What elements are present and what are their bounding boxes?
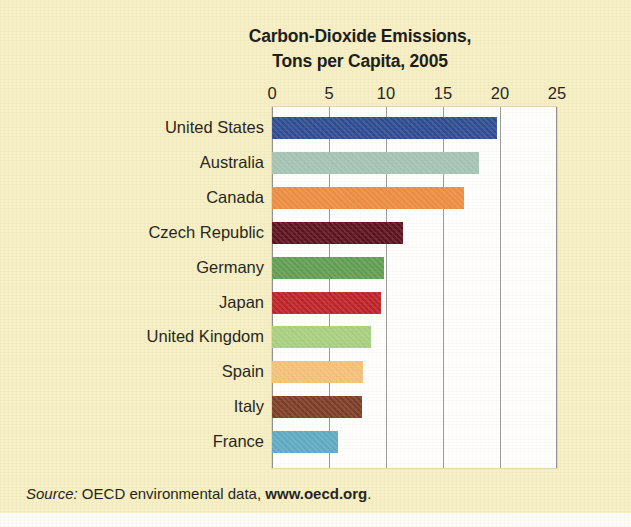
category-label-italy: Italy — [14, 397, 264, 416]
bar-texture — [272, 117, 497, 139]
bar-france — [272, 431, 338, 453]
x-tick-label-20: 20 — [480, 84, 520, 103]
category-label-spain: Spain — [14, 362, 264, 381]
category-label-united-kingdom: United Kingdom — [14, 327, 264, 346]
bar-texture — [272, 187, 464, 209]
gridline-20 — [500, 107, 501, 468]
bar-texture — [272, 257, 384, 279]
bar-italy — [272, 396, 362, 418]
x-tick-label-10: 10 — [366, 84, 406, 103]
bar-texture — [272, 361, 363, 383]
chart-title: Carbon-Dioxide Emissions, Tons per Capit… — [150, 24, 570, 74]
plot-area — [272, 107, 557, 468]
bar-spain — [272, 361, 363, 383]
bar-texture — [272, 152, 479, 174]
co2-emissions-bar-chart-figure: Carbon-Dioxide Emissions, Tons per Capit… — [0, 0, 631, 527]
x-tick-label-5: 5 — [309, 84, 349, 103]
page-bottom-strip — [0, 513, 631, 527]
bar-texture — [272, 292, 381, 314]
category-label-germany: Germany — [14, 258, 264, 277]
bar-texture — [272, 431, 338, 453]
bar-japan — [272, 292, 381, 314]
x-tick-label-25: 25 — [537, 84, 577, 103]
chart-title-line-1: Carbon-Dioxide Emissions, — [150, 24, 570, 49]
source-label: Source: — [26, 485, 78, 502]
category-label-australia: Australia — [14, 153, 264, 172]
category-label-united-states: United States — [14, 118, 264, 137]
bar-united-states — [272, 117, 497, 139]
bar-canada — [272, 187, 464, 209]
bar-czech-republic — [272, 222, 403, 244]
x-tick-label-15: 15 — [423, 84, 463, 103]
category-label-japan: Japan — [14, 293, 264, 312]
bar-texture — [272, 222, 403, 244]
plot-right-border — [556, 107, 557, 468]
category-label-czech-republic: Czech Republic — [14, 223, 264, 242]
bar-australia — [272, 152, 479, 174]
chart-title-line-2: Tons per Capita, 2005 — [150, 49, 570, 74]
source-url[interactable]: www.oecd.org — [265, 485, 367, 502]
bar-germany — [272, 257, 384, 279]
category-label-canada: Canada — [14, 188, 264, 207]
source-text: OECD environmental data, — [78, 485, 266, 502]
bar-texture — [272, 396, 362, 418]
source-period: . — [367, 485, 371, 502]
bar-united-kingdom — [272, 326, 371, 348]
x-tick-label-0: 0 — [252, 84, 292, 103]
bar-texture — [272, 326, 371, 348]
category-label-france: France — [14, 432, 264, 451]
source-note: Source: OECD environmental data, www.oec… — [26, 485, 371, 502]
